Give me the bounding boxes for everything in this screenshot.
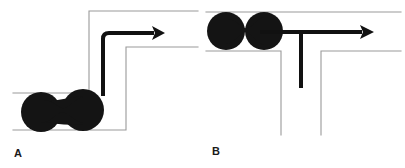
dumbbell-droplet-a: [21, 89, 104, 132]
channel-outer-wall-a: [13, 11, 198, 93]
panel-a-diagram: [0, 0, 202, 168]
panel-a: A: [0, 0, 202, 168]
channel-bottom-left-wall-b: [206, 51, 281, 135]
panel-label-b: B: [212, 146, 220, 157]
panel-label-a: A: [14, 148, 22, 159]
figure-canvas: A: [0, 0, 405, 168]
arrow-head-b: [360, 25, 374, 39]
flow-arrow-a: [103, 26, 165, 96]
panel-b: B: [202, 0, 405, 168]
channel-bottom-right-wall-b: [321, 51, 401, 135]
panel-b-diagram: [202, 0, 405, 168]
